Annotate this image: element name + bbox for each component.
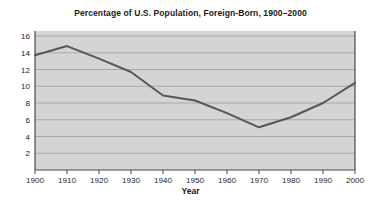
- y-tick-label: 12: [21, 66, 30, 75]
- x-tick-label: 1940: [154, 176, 172, 185]
- x-tick-label: 1970: [250, 176, 268, 185]
- x-tick-label: 1910: [58, 176, 76, 185]
- x-tick-label: 1960: [218, 176, 236, 185]
- chart-figure: Percentage of U.S. Population, Foreign-B…: [0, 0, 381, 208]
- y-tick-label: 4: [26, 133, 31, 142]
- x-tick-label: 1930: [122, 176, 140, 185]
- x-tick-label: 1950: [186, 176, 204, 185]
- y-tick-label: 16: [21, 32, 30, 41]
- y-axis-tick-labels: 246810121416: [21, 32, 30, 158]
- y-tick-label: 10: [21, 82, 30, 91]
- x-axis-title: Year: [0, 186, 381, 196]
- y-tick-label: 8: [26, 99, 31, 108]
- x-tick-label: 1920: [90, 176, 108, 185]
- x-tick-label: 1980: [282, 176, 300, 185]
- x-tick-label: 1900: [26, 176, 44, 185]
- x-tick-label: 1990: [314, 176, 332, 185]
- y-tick-label: 2: [26, 149, 31, 158]
- line-chart-plot: 246810121416 190019101920193019401950196…: [0, 0, 381, 208]
- x-tick-label: 2000: [346, 176, 364, 185]
- y-tick-label: 6: [26, 116, 31, 125]
- y-tick-label: 14: [21, 49, 30, 58]
- x-axis-tick-labels: 1900191019201930194019501960197019801990…: [26, 170, 364, 185]
